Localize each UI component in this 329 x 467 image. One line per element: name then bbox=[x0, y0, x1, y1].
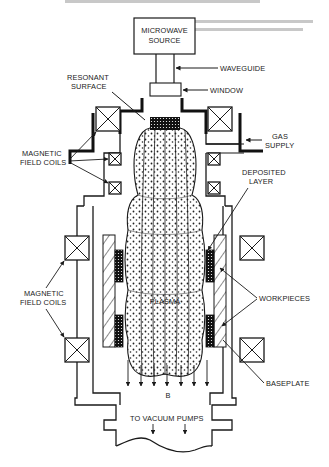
gas-supply-label-1: GAS bbox=[272, 132, 288, 141]
workpieces-label: WORKPIECES bbox=[259, 294, 310, 303]
magnetic-coils-lower-label-1: MAGNETIC bbox=[24, 289, 64, 298]
resonant-surface-label-2: SURFACE bbox=[71, 82, 107, 91]
vacuum-label: TO VACUUM PUMPS bbox=[130, 414, 204, 423]
deposited-layer-label-1: DEPOSITED bbox=[242, 168, 286, 177]
plasma-label: PLASMA bbox=[150, 297, 181, 306]
lower-right-coil-1 bbox=[240, 236, 264, 260]
resonant-surface-label-1: RESONANT bbox=[67, 73, 109, 82]
workpiece-left-lower bbox=[115, 315, 123, 347]
gas-supply-label-2: SUPPLY bbox=[265, 141, 294, 150]
baseplate-right bbox=[214, 235, 226, 347]
magnetic-coils-upper-arrows bbox=[69, 132, 108, 183]
upper-right-small-coil-2 bbox=[208, 182, 220, 194]
baseplate-label: BASEPLATE bbox=[266, 379, 309, 388]
magnetic-coils-upper-label-1: MAGNETIC bbox=[22, 149, 62, 158]
magnetic-coils-upper-label-2: FIELD COILS bbox=[20, 158, 66, 167]
workpiece-right-upper bbox=[206, 250, 214, 282]
workpiece-left-upper bbox=[115, 250, 123, 282]
window bbox=[150, 83, 181, 96]
magnetic-coils-lower-label-2: FIELD COILS bbox=[20, 298, 66, 307]
workpiece-right-lower bbox=[206, 315, 214, 347]
reactor-diagram: MICROWAVE SOURCE WAVEGUIDE WINDOW RESONA… bbox=[0, 0, 329, 467]
upper-right-small-coil-1 bbox=[208, 153, 220, 165]
upper-left-large-coil bbox=[96, 107, 120, 131]
b-field-label: B bbox=[165, 391, 170, 400]
deposited-layer-label-2: LAYER bbox=[249, 177, 273, 186]
microwave-source-label-2: SOURCE bbox=[148, 36, 180, 45]
microwave-source: MICROWAVE SOURCE bbox=[134, 18, 195, 54]
upper-left-small-coil-1 bbox=[109, 153, 121, 165]
upper-right-large-coil bbox=[208, 107, 232, 131]
waveguide bbox=[156, 54, 174, 83]
lower-left-coil-2 bbox=[65, 338, 89, 362]
lower-right-coil-2 bbox=[240, 338, 264, 362]
baseplate-left bbox=[103, 235, 115, 347]
lower-left-coil-1 bbox=[65, 236, 89, 260]
microwave-source-label-1: MICROWAVE bbox=[141, 26, 187, 35]
upper-left-small-coil-2 bbox=[109, 182, 121, 194]
window-label: WINDOW bbox=[210, 86, 243, 95]
waveguide-label: WAVEGUIDE bbox=[220, 64, 265, 73]
plasma: PLASMA bbox=[125, 117, 205, 377]
